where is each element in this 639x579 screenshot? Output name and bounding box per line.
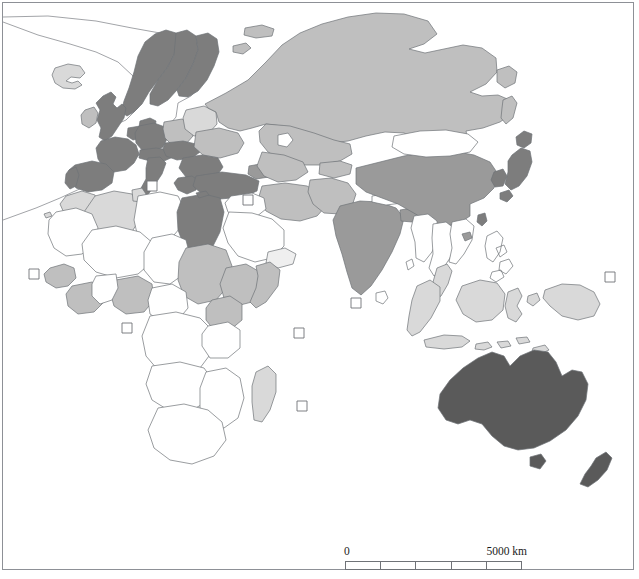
region-andaman — [406, 259, 414, 270]
region-borneo — [456, 280, 505, 322]
region-java — [424, 335, 470, 349]
island-marker-atlantic-west — [29, 269, 39, 279]
region-sulawesi — [505, 288, 522, 322]
region-sri-lanka — [376, 291, 388, 304]
world-choropleth-map-figure: 0 5000 km — [0, 0, 639, 579]
region-ukraine — [194, 128, 244, 158]
scale-label-max: 5000 km — [486, 545, 527, 557]
region-sakhalin — [501, 96, 517, 124]
scale-labels: 0 5000 km — [344, 545, 524, 559]
region-madagascar — [252, 366, 276, 422]
region-philippines — [485, 231, 513, 282]
scale-segment — [381, 562, 416, 569]
region-vietnam-laos-cambodia — [449, 219, 474, 264]
region-russia-arctic-islands — [244, 25, 274, 38]
region-tanzania — [202, 322, 240, 358]
island-marker-pacific-east — [605, 272, 615, 282]
scale-segment — [416, 562, 451, 569]
region-lesser-sunda — [475, 337, 530, 350]
region-australia — [438, 350, 588, 450]
island-marker-cape-verde — [122, 323, 132, 333]
scale-segment — [452, 562, 487, 569]
region-india — [333, 201, 404, 295]
region-ireland — [81, 107, 98, 128]
region-mongolia — [392, 130, 478, 157]
region-kamchatka-extra — [497, 66, 517, 88]
region-kyrgyz-tajik — [319, 161, 352, 178]
scale-bar-group: 0 5000 km — [344, 545, 524, 573]
scale-bar — [345, 561, 522, 570]
map-canvas — [0, 0, 639, 579]
region-canary-islands — [44, 212, 52, 218]
region-new-zealand — [580, 452, 612, 487]
island-marker-mediterranean — [243, 195, 253, 205]
region-sumatra — [407, 280, 440, 336]
island-marker-seychelles — [297, 401, 307, 411]
region-senegal-guinea — [44, 264, 76, 288]
island-marker-gulf-guinea — [294, 328, 304, 338]
region-papua-new-guinea — [543, 284, 600, 320]
region-united-kingdom — [96, 92, 126, 141]
scale-segment — [346, 562, 381, 569]
scale-segment — [487, 562, 521, 569]
region-japan — [500, 131, 532, 202]
region-novaya-zemlya — [233, 43, 251, 54]
region-maluku — [527, 293, 540, 306]
island-marker-cyprus — [147, 181, 157, 191]
region-taiwan — [477, 213, 487, 226]
region-tasmania — [530, 454, 546, 469]
region-iceland — [52, 64, 85, 89]
scale-label-zero: 0 — [344, 545, 350, 557]
island-marker-maldives — [351, 298, 361, 308]
